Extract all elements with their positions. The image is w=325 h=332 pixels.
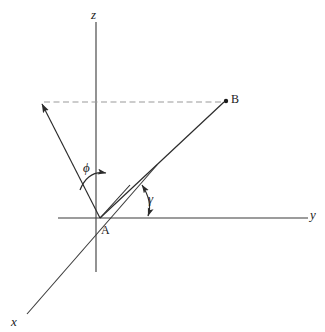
x-axis-line bbox=[27, 165, 157, 314]
vector-AB-line bbox=[100, 102, 224, 218]
point-B-label: B bbox=[231, 93, 239, 105]
figure-container: z y x A B ϕ γ bbox=[0, 0, 325, 332]
angle-gamma-label: γ bbox=[148, 192, 153, 205]
projection-arrow-line bbox=[42, 104, 100, 218]
vector-diagram-svg bbox=[0, 0, 325, 332]
z-axis-label: z bbox=[91, 8, 96, 21]
y-axis-label: y bbox=[310, 208, 316, 221]
angle-phi-label: ϕ bbox=[83, 161, 90, 174]
x-axis-label: x bbox=[11, 315, 17, 328]
point-A-label: A bbox=[101, 224, 110, 236]
point-B-dot bbox=[224, 99, 228, 103]
